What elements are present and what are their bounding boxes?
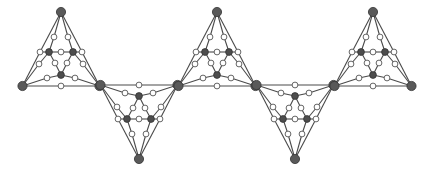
dark-node [58, 72, 65, 79]
triangle-1-nodes [18, 7, 104, 90]
dark-node [214, 72, 221, 79]
white-node [391, 49, 397, 55]
white-node [214, 49, 220, 55]
white-node [286, 105, 292, 111]
dark-node [136, 93, 143, 100]
dark-node [46, 49, 53, 56]
white-node [207, 34, 213, 40]
white-node [214, 83, 220, 89]
white-node [228, 75, 234, 81]
dark-node [370, 72, 377, 79]
white-node [376, 60, 382, 66]
white-node [64, 60, 70, 66]
white-node [114, 104, 120, 110]
white-node [150, 90, 156, 96]
white-node [392, 61, 398, 67]
white-node [158, 104, 164, 110]
white-node [143, 131, 149, 137]
outer-node [96, 80, 105, 89]
white-node [306, 90, 312, 96]
white-node [52, 60, 58, 66]
white-node [348, 61, 354, 67]
white-node [193, 49, 199, 55]
white-node [384, 75, 390, 81]
outer-node [252, 80, 261, 89]
dark-node [70, 49, 77, 56]
white-node [220, 60, 226, 66]
white-node [36, 61, 42, 67]
white-node [235, 49, 241, 55]
white-node [115, 116, 121, 122]
white-node [130, 105, 136, 111]
white-node [58, 49, 64, 55]
dark-node [382, 49, 389, 56]
dark-node [124, 116, 131, 123]
white-node [44, 75, 50, 81]
white-node [292, 116, 298, 122]
triangle-2-nodes [96, 80, 182, 163]
outer-node [174, 81, 183, 90]
dark-node [358, 49, 365, 56]
white-node [356, 75, 362, 81]
dark-node [292, 93, 299, 100]
triangle-4-nodes [252, 80, 338, 163]
dark-node [226, 49, 233, 56]
triangle-3-nodes [174, 7, 260, 90]
outer-node [212, 7, 221, 16]
white-node [136, 82, 142, 88]
white-node [208, 60, 214, 66]
white-node [200, 75, 206, 81]
white-node [79, 49, 85, 55]
white-node [313, 116, 319, 122]
dark-node [202, 49, 209, 56]
white-node [65, 34, 71, 40]
white-node [142, 105, 148, 111]
outer-node [56, 7, 65, 16]
white-node [314, 104, 320, 110]
outer-node [368, 7, 377, 16]
white-node [299, 131, 305, 137]
dark-node [304, 116, 311, 123]
dark-node [148, 116, 155, 123]
white-node [58, 83, 64, 89]
white-node [370, 83, 376, 89]
white-node [377, 34, 383, 40]
outer-node [330, 81, 339, 90]
white-node [298, 105, 304, 111]
white-node [157, 116, 163, 122]
white-node [271, 116, 277, 122]
white-node [364, 60, 370, 66]
white-node [122, 90, 128, 96]
outer-node [134, 154, 143, 163]
dark-node [280, 116, 287, 123]
white-node [236, 61, 242, 67]
white-node [37, 49, 43, 55]
white-node [363, 34, 369, 40]
white-node [270, 104, 276, 110]
triangle-chain-graph [0, 0, 430, 175]
white-node [80, 61, 86, 67]
triangle-5-nodes [330, 7, 416, 90]
white-node [51, 34, 57, 40]
white-node [370, 49, 376, 55]
white-node [72, 75, 78, 81]
white-node [292, 82, 298, 88]
white-node [136, 116, 142, 122]
outer-node [18, 81, 27, 90]
outer-node [290, 154, 299, 163]
white-node [192, 61, 198, 67]
outer-node [407, 81, 416, 90]
white-node [129, 131, 135, 137]
white-node [285, 131, 291, 137]
white-node [278, 90, 284, 96]
white-node [221, 34, 227, 40]
white-node [349, 49, 355, 55]
